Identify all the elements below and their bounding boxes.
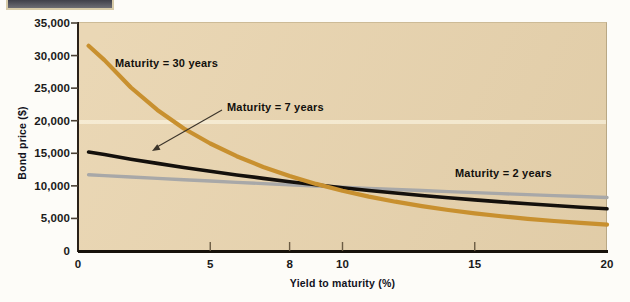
data-series-group — [89, 46, 607, 225]
x-tick-label: 8 — [286, 258, 292, 270]
x-tick-label: 20 — [601, 258, 614, 270]
x-tick-marks — [210, 242, 475, 251]
series-label-maturity-2: Maturity = 2 years — [455, 167, 552, 179]
y-tick-marks — [71, 23, 78, 218]
x-tick-label: 0 — [75, 258, 81, 270]
y-tick-label: 30,000 — [8, 50, 70, 62]
chart-svg — [0, 0, 630, 302]
x-tick-label: 15 — [468, 258, 481, 270]
x-tick-label: 5 — [207, 258, 213, 270]
y-tick-label: 5,000 — [8, 212, 70, 224]
x-axis-title: Yield to maturity (%) — [78, 277, 607, 289]
series-label-maturity-30: Maturity = 30 years — [115, 57, 218, 69]
series-label-maturity-7: Maturity = 7 years — [227, 101, 324, 113]
series-line — [89, 46, 607, 225]
bond-price-figure: 35,00030,00025,00020,00015,00010,0005,00… — [0, 0, 630, 302]
x-tick-label: 10 — [336, 258, 349, 270]
y-tick-label: 35,000 — [8, 17, 70, 29]
y-tick-label: 0 — [8, 245, 70, 257]
y-axis-title: Bond price ($) — [16, 83, 28, 203]
